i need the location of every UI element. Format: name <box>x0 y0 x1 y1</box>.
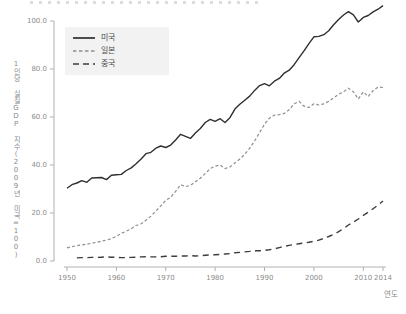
gdp-per-capita-line-chart-figure: 1인당 실질GDP 지수(2009년 미국=100) 0.020.040.060… <box>0 0 406 314</box>
x-tick-label: 2000 <box>299 274 329 283</box>
series-line-2 <box>77 201 383 258</box>
y-axis-spine <box>50 21 54 261</box>
x-tick-label: 1960 <box>101 274 131 283</box>
x-tick-label: 1970 <box>151 274 181 283</box>
japan-line-sample-icon <box>73 47 95 55</box>
y-tick-label: 100.0 <box>19 17 47 26</box>
legend: 미국 일본 중국 <box>65 27 169 75</box>
china-line-sample-icon <box>73 60 95 68</box>
x-tick-label: 1950 <box>52 274 82 283</box>
y-tick-label: 40.0 <box>19 161 47 170</box>
y-tick-label: 80.0 <box>19 65 47 74</box>
x-axis-title: 연도 <box>368 288 398 299</box>
x-tick-label: 1990 <box>250 274 280 283</box>
legend-label-japan: 일본 <box>101 46 115 56</box>
line-chart-canvas <box>0 0 406 314</box>
usa-line-sample-icon <box>73 34 95 42</box>
legend-label-usa: 미국 <box>101 33 115 43</box>
x-axis-spine <box>64 267 386 271</box>
legend-item-japan: 일본 <box>65 45 169 58</box>
y-tick-label: 60.0 <box>19 113 47 122</box>
legend-item-china: 중국 <box>65 58 169 71</box>
series-line-1 <box>67 87 383 248</box>
legend-item-usa: 미국 <box>65 32 169 45</box>
y-tick-label: 20.0 <box>19 209 47 218</box>
x-tick-label: 2014 <box>368 274 398 283</box>
x-tick-label: 1980 <box>200 274 230 283</box>
y-tick-label: 0.0 <box>19 257 47 266</box>
legend-label-china: 중국 <box>101 59 115 69</box>
